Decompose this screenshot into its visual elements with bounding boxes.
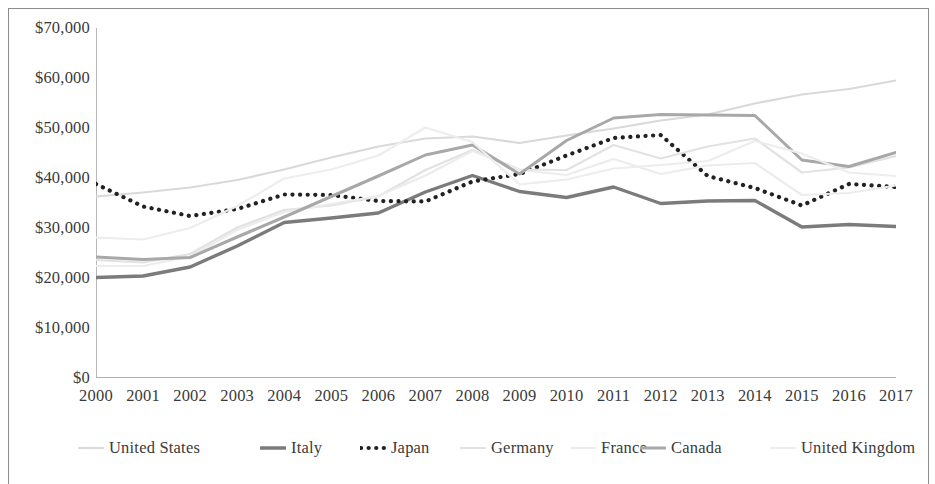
- y-axis-tick-label: $10,000: [6, 318, 90, 338]
- y-axis-tick-label: $60,000: [6, 68, 90, 88]
- y-axis-tick-label: $40,000: [6, 168, 90, 188]
- x-axis-tick-label: 2013: [691, 386, 725, 406]
- legend-item-label: United States: [109, 438, 200, 458]
- series-lines: [96, 28, 896, 378]
- x-axis-tick-label: 2014: [738, 386, 772, 406]
- x-axis-tick-label: 2001: [126, 386, 160, 406]
- x-axis-tick-label: 2009: [503, 386, 537, 406]
- y-axis-tick-label: $0: [6, 368, 90, 388]
- legend-item-united-kingdom[interactable]: United Kingdom: [770, 436, 915, 460]
- series-line-united-states: [96, 81, 896, 197]
- x-axis-tick-label: 2008: [456, 386, 490, 406]
- y-axis-tick-label: $70,000: [6, 18, 90, 38]
- figure-frame-top-border: [8, 8, 929, 9]
- figure-frame-right-border: [928, 8, 929, 484]
- legend-line-icon: [78, 441, 104, 455]
- x-axis-tick-label: 2012: [644, 386, 678, 406]
- x-axis-tick-label: 2007: [409, 386, 443, 406]
- plot-area: [96, 28, 896, 378]
- legend-line-icon: [570, 441, 596, 455]
- legend-item-label: Japan: [391, 438, 430, 458]
- x-axis-tick-label: 2000: [79, 386, 113, 406]
- chart-figure: $70,000$60,000$50,000$40,000$30,000$20,0…: [0, 0, 935, 484]
- legend-item-italy[interactable]: Italy: [260, 436, 322, 460]
- legend-item-france[interactable]: France: [570, 436, 647, 460]
- x-axis-tick-label: 2017: [879, 386, 913, 406]
- legend-item-label: United Kingdom: [801, 438, 915, 458]
- legend-item-label: Italy: [291, 438, 322, 458]
- y-axis-tick-label: $20,000: [6, 268, 90, 288]
- x-axis-tick-label: 2011: [597, 386, 630, 406]
- legend-line-icon: [640, 441, 666, 455]
- legend-item-japan[interactable]: Japan: [360, 436, 430, 460]
- legend-item-label: Germany: [491, 438, 554, 458]
- legend-line-icon: [360, 441, 386, 455]
- chart-legend: United StatesItalyJapanGermanyFranceCana…: [70, 436, 930, 462]
- y-axis-tick-label: $30,000: [6, 218, 90, 238]
- series-line-germany: [96, 139, 896, 263]
- x-axis-tick-label: 2003: [220, 386, 254, 406]
- legend-item-germany[interactable]: Germany: [460, 436, 554, 460]
- x-axis-tick-label: 2005: [314, 386, 348, 406]
- legend-item-united-states[interactable]: United States: [78, 436, 200, 460]
- x-axis-tick-label: 2015: [785, 386, 819, 406]
- legend-line-icon: [260, 441, 286, 455]
- legend-line-icon: [460, 441, 486, 455]
- legend-line-icon: [770, 441, 796, 455]
- legend-item-canada[interactable]: Canada: [640, 436, 722, 460]
- x-axis-tick-label: 2010: [550, 386, 584, 406]
- y-axis-tick-label: $50,000: [6, 118, 90, 138]
- x-axis-tick-label: 2004: [267, 386, 301, 406]
- x-axis-tick-label: 2002: [173, 386, 207, 406]
- series-line-canada: [96, 115, 896, 260]
- series-line-france: [96, 151, 896, 266]
- x-axis-tick-label: 2016: [832, 386, 866, 406]
- y-axis: $70,000$60,000$50,000$40,000$30,000$20,0…: [0, 28, 90, 378]
- x-axis-tick-label: 2006: [361, 386, 395, 406]
- x-axis: 2000200120022003200420052006200720082009…: [96, 386, 896, 408]
- series-line-italy: [96, 176, 896, 278]
- legend-item-label: Canada: [671, 438, 722, 458]
